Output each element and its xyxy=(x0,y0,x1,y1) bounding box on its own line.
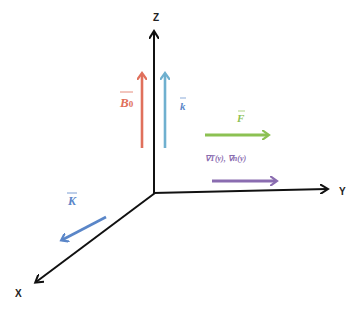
k-label: k xyxy=(180,100,186,112)
coordinate-diagram: Z Y X B0 k F ∇T(y), ∇n(y) K xyxy=(0,0,362,309)
b0-label: B0 xyxy=(119,95,134,110)
x-axis xyxy=(36,193,155,282)
vector-k-small: k xyxy=(165,74,186,148)
y-axis-label: Y xyxy=(339,186,346,197)
vector-f: F xyxy=(205,111,268,135)
y-axis xyxy=(153,189,327,193)
vector-gradients: ∇T(y), ∇n(y) xyxy=(205,154,276,181)
vector-k-large: K xyxy=(62,193,106,240)
gradients-label: ∇T(y), ∇n(y) xyxy=(205,154,246,163)
axes: Z Y X xyxy=(15,12,346,299)
x-axis-label: X xyxy=(15,288,22,299)
z-axis-label: Z xyxy=(153,12,159,23)
big-k-arrow-icon xyxy=(62,217,106,240)
vector-b0: B0 xyxy=(119,74,142,148)
big-k-label: K xyxy=(67,194,77,208)
f-label: F xyxy=(236,112,245,124)
